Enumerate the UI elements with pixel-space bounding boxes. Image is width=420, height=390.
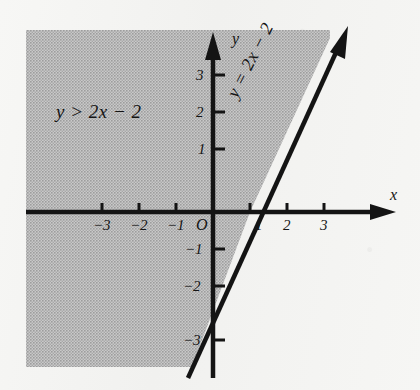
x-axis-arrowhead: [370, 204, 396, 220]
y-tick-label-2: 2: [196, 105, 204, 120]
x-tick-label-neg2: −2: [130, 218, 148, 233]
y-tick-label-1: 1: [198, 142, 206, 157]
x-tick-label-neg1: −1: [167, 218, 185, 233]
x-tick-label-2: 2: [283, 218, 291, 233]
shaded-region: [26, 30, 330, 367]
inequality-graph-figure: y > 2x − 2 y = 2x − 2 y x O −3 −2 −1 1 2…: [0, 0, 420, 390]
line-arrowhead: [330, 26, 348, 59]
coordinate-plane: [0, 0, 420, 390]
y-tick-label-neg2: −2: [183, 279, 201, 294]
y-tick-label-3: 3: [196, 68, 204, 83]
y-axis-label: y: [232, 31, 239, 47]
x-tick-label-1: 1: [255, 218, 263, 233]
x-tick-label-neg3: −3: [93, 218, 111, 233]
origin-label: O: [196, 216, 208, 234]
y-tick-label-neg1: −1: [185, 242, 203, 257]
inequality-annotation: y > 2x − 2: [56, 101, 142, 123]
y-tick-label-neg3: −3: [183, 333, 201, 348]
x-axis-label: x: [390, 187, 397, 203]
x-tick-label-3: 3: [320, 218, 328, 233]
